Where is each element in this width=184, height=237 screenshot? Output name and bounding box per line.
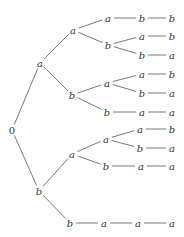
root-node: 0 bbox=[9, 125, 15, 136]
tree-node: b bbox=[104, 107, 110, 118]
tree-node: b bbox=[67, 218, 73, 229]
tree-edge bbox=[113, 76, 136, 82]
tree-edge bbox=[14, 69, 37, 125]
tree-edge bbox=[112, 131, 134, 138]
tree-node: b bbox=[69, 90, 75, 101]
tree-edge bbox=[78, 85, 102, 93]
tree-edge bbox=[44, 34, 69, 59]
tree-diagram: 0abababababababababaabaabbabaabaaa bbox=[0, 0, 184, 237]
tree-node: b bbox=[139, 13, 145, 24]
tree-node: a bbox=[104, 78, 110, 89]
tree-edge bbox=[114, 38, 136, 44]
tree-node: a bbox=[169, 107, 175, 118]
tree-node: b bbox=[169, 124, 175, 135]
tree-node: a bbox=[139, 107, 145, 118]
tree-node: b bbox=[36, 186, 42, 197]
tree-edge bbox=[112, 141, 134, 147]
tree-node: a bbox=[69, 149, 75, 160]
tree-node: a bbox=[137, 124, 143, 135]
tree-node: a bbox=[139, 69, 145, 80]
tree-edge bbox=[78, 156, 101, 164]
tree-node: b bbox=[103, 161, 109, 172]
tree-node: a bbox=[70, 25, 76, 36]
tree-edge bbox=[78, 141, 101, 151]
tree-node: a bbox=[169, 88, 175, 99]
tree-node: b bbox=[169, 69, 175, 80]
tree-node: a bbox=[37, 58, 43, 69]
tree-node: b bbox=[139, 50, 145, 61]
tree-node: a bbox=[101, 218, 107, 229]
tree-node: a bbox=[169, 161, 175, 172]
tree-node: b bbox=[139, 88, 145, 99]
tree-node: a bbox=[169, 143, 175, 154]
tree-node: a bbox=[135, 218, 141, 229]
tree-node: a bbox=[139, 31, 145, 42]
tree-node: a bbox=[169, 218, 175, 229]
tree-node: a bbox=[138, 161, 144, 172]
tree-node: b bbox=[105, 40, 111, 51]
tree-nodes: 0abababababababababaabaabbabaabaaa bbox=[9, 13, 175, 229]
tree-edge bbox=[79, 20, 103, 28]
tree-edge bbox=[113, 85, 136, 92]
tree-edge bbox=[44, 67, 68, 91]
tree-node: a bbox=[169, 50, 175, 61]
tree-node: b bbox=[169, 13, 175, 24]
tree-edge bbox=[43, 195, 66, 218]
tree-edge bbox=[14, 136, 36, 186]
tree-edge bbox=[114, 47, 136, 54]
tree-node: a bbox=[103, 134, 109, 145]
tree-node: b bbox=[137, 143, 143, 154]
tree-node: a bbox=[105, 13, 111, 24]
tree-edge bbox=[79, 32, 103, 42]
tree-node: b bbox=[169, 31, 175, 42]
tree-edge bbox=[43, 159, 68, 187]
tree-edge bbox=[77, 98, 101, 110]
